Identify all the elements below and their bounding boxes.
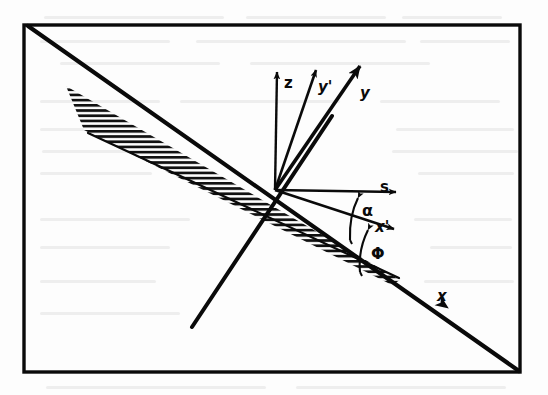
y-axis-label: y <box>360 86 370 101</box>
z-axis-label: z <box>284 76 293 91</box>
s-axis-label: s <box>380 180 389 195</box>
y-prime-axis-label: y' <box>318 80 332 95</box>
x-axis-label: x <box>437 289 447 304</box>
phi-angle-label: Φ <box>371 246 385 262</box>
coordinate-system-diagram <box>0 0 548 395</box>
alpha-angle-label: α <box>362 203 373 219</box>
figure-container: z y' y s α x' Φ x <box>0 0 548 395</box>
x-prime-axis-label: x' <box>375 220 389 235</box>
